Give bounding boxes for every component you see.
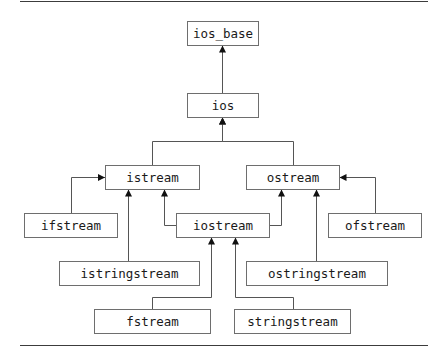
node-stringstream: stringstream (235, 310, 351, 334)
node-istringstream: istringstream (60, 262, 200, 286)
node-ostringstream: ostringstream (247, 262, 388, 286)
edge-iostream-to-istream (165, 190, 177, 226)
node-label: ostream (267, 170, 320, 185)
edge-ifstream-to-istream (72, 178, 106, 214)
node-label: istringstream (81, 266, 179, 281)
node-label: ios_base (193, 26, 253, 41)
class-hierarchy-diagram: ios_base ios istream ostream ifstream io… (0, 0, 443, 354)
node-label: ostringstream (268, 266, 366, 281)
node-ios: ios (188, 94, 259, 118)
node-label: ofstream (345, 218, 405, 233)
node-label: stringstream (247, 314, 337, 329)
node-label: istream (126, 170, 179, 185)
node-iostream: iostream (177, 214, 270, 238)
edge-istream-to-ios (153, 118, 223, 166)
node-ifstream: ifstream (25, 214, 118, 238)
node-ios_base: ios_base (188, 22, 259, 46)
node-label: fstream (126, 314, 179, 329)
node-label: ios (212, 98, 235, 113)
node-ostream: ostream (247, 166, 340, 190)
node-label: iostream (193, 218, 253, 233)
node-istream: istream (106, 166, 200, 190)
edge-ofstream-to-ostream (340, 178, 376, 214)
edge-iostream-to-ostream (269, 190, 282, 226)
node-ofstream: ofstream (329, 214, 422, 238)
node-label: ifstream (41, 218, 101, 233)
node-fstream: fstream (95, 310, 211, 334)
edge-ostream-to-ios (223, 118, 294, 166)
